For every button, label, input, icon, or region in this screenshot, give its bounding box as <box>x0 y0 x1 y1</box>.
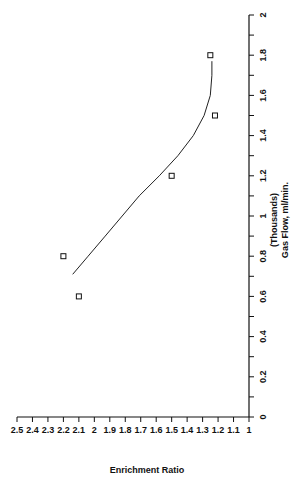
data-point-square <box>61 254 66 259</box>
y-tick-label: 2.4 <box>26 425 39 435</box>
data-point-square <box>212 113 217 118</box>
y-tick-label: 2.2 <box>57 425 70 435</box>
x-tick-label: 0.8 <box>258 250 268 263</box>
x-tick-label: 1.4 <box>258 129 268 142</box>
y-tick-label: 2.1 <box>73 425 86 435</box>
data-point-square <box>208 53 213 58</box>
y-tick-label: 1.7 <box>134 425 147 435</box>
y-tick-label: 1.1 <box>227 425 240 435</box>
y-tick-label: 2 <box>92 425 97 435</box>
y-tick-label: 1.8 <box>119 425 132 435</box>
axes <box>17 15 249 417</box>
x-tick-label: 0.2 <box>258 371 268 384</box>
x-tick-label: 2 <box>258 12 268 17</box>
enrichment-ratio-chart: 00.20.40.60.811.21.41.61.82 11.11.21.31.… <box>0 0 293 495</box>
y-tick-label: 1 <box>246 425 251 435</box>
y-axis-title: Enrichment Ratio <box>110 465 185 475</box>
data-point-square <box>76 294 81 299</box>
y-tick-label: 1.5 <box>165 425 178 435</box>
y-axis-ticks: 11.11.21.31.41.51.61.71.81.922.12.22.32.… <box>11 417 252 435</box>
fitted-curve <box>73 61 212 274</box>
x-axis-title: Gas Flow, ml/min. <box>280 182 290 258</box>
y-tick-label: 1.9 <box>104 425 117 435</box>
x-axis-ticks: 00.20.40.60.811.21.41.61.82 <box>249 12 268 419</box>
x-tick-label: 0.4 <box>258 330 268 343</box>
y-tick-label: 1.3 <box>196 425 209 435</box>
y-tick-label: 1.2 <box>212 425 225 435</box>
y-tick-label: 2.3 <box>42 425 55 435</box>
x-tick-label: 1.6 <box>258 89 268 102</box>
data-point-square <box>169 173 174 178</box>
y-tick-label: 2.5 <box>11 425 24 435</box>
x-tick-label: 0.6 <box>258 290 268 303</box>
x-axis-subtitle: (Thousands) <box>269 193 279 247</box>
x-tick-label: 1.2 <box>258 170 268 183</box>
data-points <box>61 53 218 299</box>
y-tick-label: 1.4 <box>181 425 194 435</box>
y-tick-label: 1.6 <box>150 425 163 435</box>
x-tick-label: 1 <box>258 213 268 218</box>
x-tick-label: 1.8 <box>258 49 268 62</box>
rotated-chart: 00.20.40.60.811.21.41.61.82 11.11.21.31.… <box>0 0 293 495</box>
x-tick-label: 0 <box>258 414 268 419</box>
